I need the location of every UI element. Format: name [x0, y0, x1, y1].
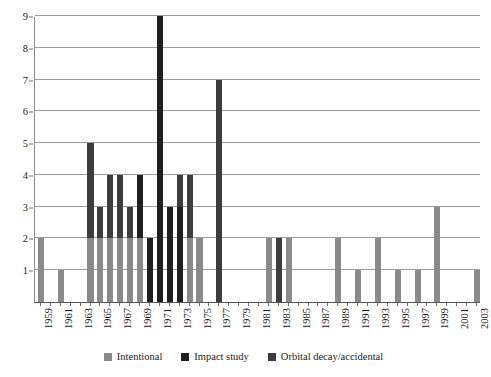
x-tickmark [436, 303, 437, 306]
x-tick-label-1981: 1981 [262, 308, 273, 329]
y-tickmark-6 [29, 112, 33, 113]
bar-segment [474, 270, 480, 302]
x-tickmark [308, 303, 309, 306]
x-tickmark [60, 303, 61, 306]
x-tick-label-2003: 2003 [480, 308, 491, 329]
legend-item-0[interactable]: Intentional [104, 352, 163, 363]
x-tickmark [357, 303, 358, 306]
bar-segment [107, 175, 113, 239]
bar-column [137, 175, 143, 302]
x-tickmark [387, 303, 388, 306]
bar-segment [375, 238, 381, 302]
x-tick-label-1997: 1997 [421, 308, 432, 329]
legend-swatch-icon [268, 353, 276, 361]
legend-swatch-icon [181, 353, 189, 361]
x-tickmark [397, 303, 398, 306]
x-tick-label-1995: 1995 [401, 308, 412, 329]
bar-column [355, 270, 361, 302]
x-tickmark [218, 303, 219, 306]
x-tickmark [476, 303, 477, 306]
x-tickmark [278, 303, 279, 306]
y-tick-label-6: 6 [2, 107, 28, 118]
x-tickmark [337, 303, 338, 306]
x-tick-label-1975: 1975 [203, 308, 214, 329]
bar-segment [187, 175, 193, 239]
bar-segment [187, 238, 193, 302]
bar-column [335, 238, 341, 302]
y-tick-label-1: 1 [2, 266, 28, 277]
bar-segment [117, 238, 123, 302]
bar-segment [137, 175, 143, 239]
x-tick-label-1971: 1971 [163, 308, 174, 329]
x-tick-label-1999: 1999 [440, 308, 451, 329]
y-tickmark-8 [29, 48, 33, 49]
y-tickmark-3 [29, 207, 33, 208]
x-tickmark [179, 303, 180, 306]
x-tick-label-1965: 1965 [103, 308, 114, 329]
legend-item-2[interactable]: Orbital decay/accidental [268, 352, 383, 363]
x-tickmark [139, 303, 140, 306]
bar-column [147, 238, 153, 302]
bar-segment [355, 270, 361, 302]
x-tickmark [268, 303, 269, 306]
y-tickmark-2 [29, 239, 33, 240]
legend-swatch-icon [104, 353, 112, 361]
x-tick-label-1989: 1989 [341, 308, 352, 329]
x-tickmark [70, 303, 71, 306]
bar-segment [127, 238, 133, 302]
x-tickmark [317, 303, 318, 306]
x-tickmark [228, 303, 229, 306]
bar-segment [58, 270, 64, 302]
legend-item-1[interactable]: Impact study [181, 352, 249, 363]
x-tickmark [109, 303, 110, 306]
bar-segment [196, 238, 202, 302]
x-tickmark [99, 303, 100, 306]
y-axis: 123456789 [0, 0, 34, 303]
bar-column [58, 270, 64, 302]
bar-segment [117, 175, 123, 239]
bar-segment [276, 238, 282, 302]
bar-column [177, 175, 183, 302]
bar-column [196, 238, 202, 302]
x-tickmark [50, 303, 51, 306]
y-tickmark-7 [29, 80, 33, 81]
bar-column [157, 16, 163, 302]
x-tickmark [456, 303, 457, 306]
x-tickmark [327, 303, 328, 306]
x-tickmark [80, 303, 81, 306]
x-tick-label-1969: 1969 [143, 308, 154, 329]
bar-segment [177, 207, 183, 302]
bar-column [127, 207, 133, 302]
x-tick-label-1967: 1967 [123, 308, 134, 329]
x-tickmark [40, 303, 41, 306]
bar-segment [137, 238, 143, 302]
x-tickmark [377, 303, 378, 306]
x-tickmark [149, 303, 150, 306]
bar-segment [266, 238, 272, 302]
y-tick-label-5: 5 [2, 139, 28, 150]
y-tickmark-9 [29, 17, 33, 18]
y-tick-label-8: 8 [2, 44, 28, 55]
bar-segment [87, 238, 93, 302]
bar-column [87, 143, 93, 302]
y-tick-label-3: 3 [2, 202, 28, 213]
bar-segment [127, 207, 133, 239]
x-tickmark [248, 303, 249, 306]
bar-segment [415, 270, 421, 302]
bar-segment [167, 207, 173, 302]
x-tick-label-1961: 1961 [64, 308, 75, 329]
x-tickmark [367, 303, 368, 306]
bar-column [286, 238, 292, 302]
y-tick-label-7: 7 [2, 75, 28, 86]
x-axis: 1959196119631965196719691971197319751977… [35, 303, 480, 359]
bar-segment [38, 238, 44, 302]
bar-segment [335, 238, 341, 302]
bar-column [167, 207, 173, 302]
x-tick-label-1973: 1973 [183, 308, 194, 329]
bar-column [474, 270, 480, 302]
plot-area [34, 17, 480, 303]
y-tickmark-5 [29, 144, 33, 145]
legend-label: Intentional [117, 352, 163, 363]
bar-segment [157, 16, 163, 302]
